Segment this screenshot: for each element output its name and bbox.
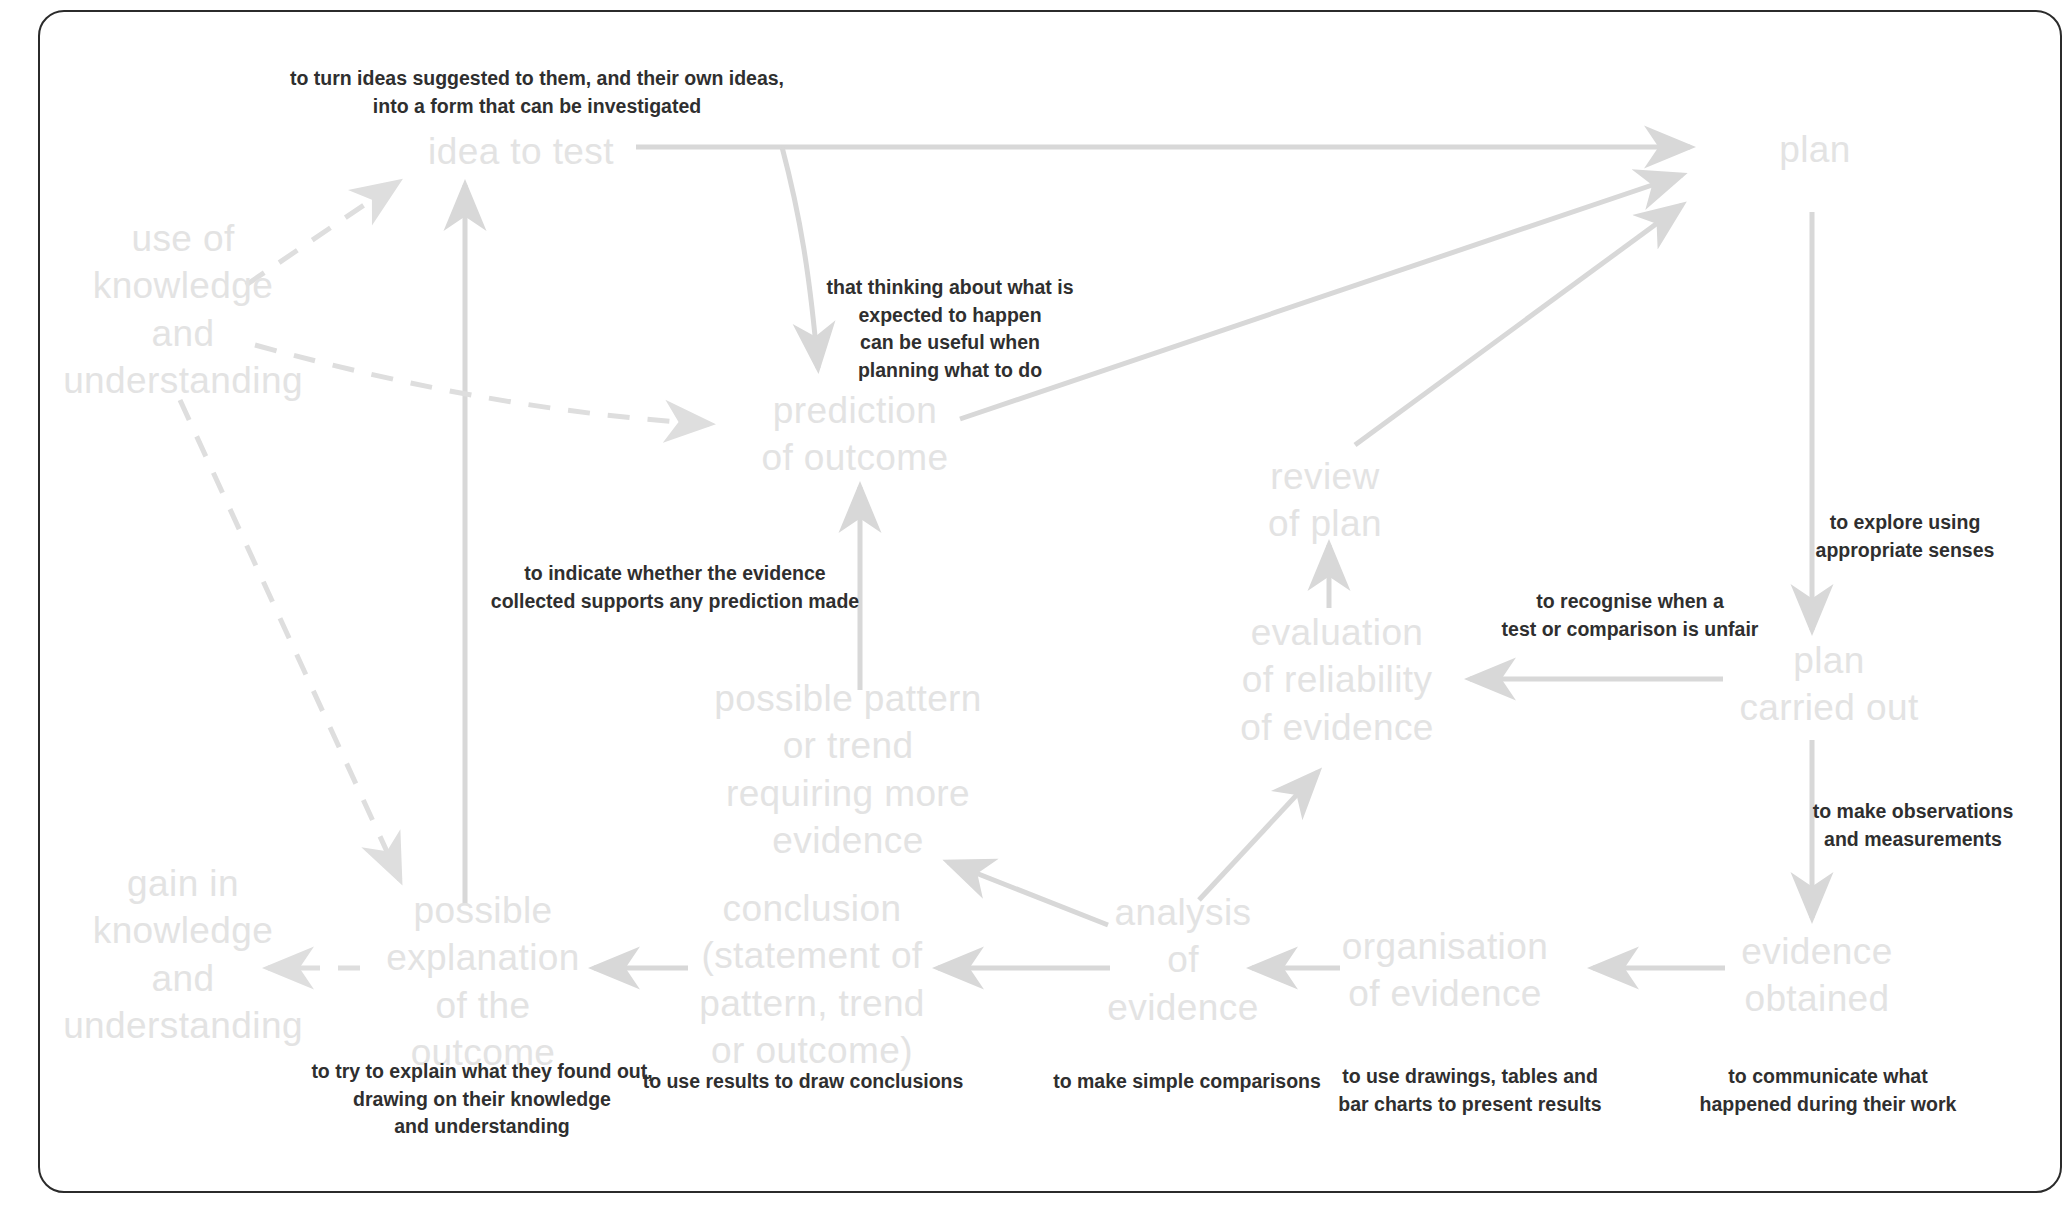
node-plan[interactable]: plan xyxy=(1779,126,1851,173)
node-review-of-plan[interactable]: reviewof plan xyxy=(1268,453,1382,548)
annotation-turn-ideas: to turn ideas suggested to them, and the… xyxy=(290,65,784,120)
node-evidence-obtained[interactable]: evidenceobtained xyxy=(1741,928,1892,1023)
annotation-simple-comparisons: to make simple comparisons xyxy=(1053,1068,1321,1096)
annotation-drawings-tables: to use drawings, tables andbar charts to… xyxy=(1338,1063,1601,1118)
node-conclusion[interactable]: conclusion(statement ofpattern, trendor … xyxy=(699,885,925,1074)
annotation-observations: to make observationsand measurements xyxy=(1813,798,2013,853)
node-prediction-of-outcome[interactable]: predictionof outcome xyxy=(761,387,948,482)
diagram-canvas: plan (long top horizontal) --> predictio… xyxy=(0,0,2072,1205)
annotation-thinking-expected: that thinking about what isexpected to h… xyxy=(827,274,1074,385)
node-organisation-of-evidence[interactable]: organisationof evidence xyxy=(1342,923,1548,1018)
node-possible-explanation[interactable]: possibleexplanationof theoutcome xyxy=(386,887,580,1076)
annotation-draw-conclusions: to use results to draw conclusions xyxy=(643,1068,964,1096)
annotation-try-to-explain: to try to explain what they found out,dr… xyxy=(311,1058,652,1141)
annotation-explore-senses: to explore usingappropriate senses xyxy=(1816,509,1995,564)
node-evaluation-of-reliability[interactable]: evaluationof reliabilityof evidence xyxy=(1240,609,1434,751)
node-gain-in-knowledge[interactable]: gain inknowledgeandunderstanding xyxy=(63,860,303,1049)
annotation-evidence-supports: to indicate whether the evidencecollecte… xyxy=(491,560,859,615)
node-possible-pattern[interactable]: possible patternor trendrequiring moreev… xyxy=(714,675,982,864)
annotation-communicate: to communicate whathappened during their… xyxy=(1700,1063,1957,1118)
node-use-of-knowledge[interactable]: use ofknowledgeandunderstanding xyxy=(63,215,303,404)
node-plan-carried-out[interactable]: plancarried out xyxy=(1739,637,1918,732)
annotation-recognise-unfair: to recognise when atest or comparison is… xyxy=(1502,588,1759,643)
node-idea-to-test[interactable]: idea to test xyxy=(428,128,614,175)
node-analysis-of-evidence[interactable]: analysisofevidence xyxy=(1107,889,1258,1031)
